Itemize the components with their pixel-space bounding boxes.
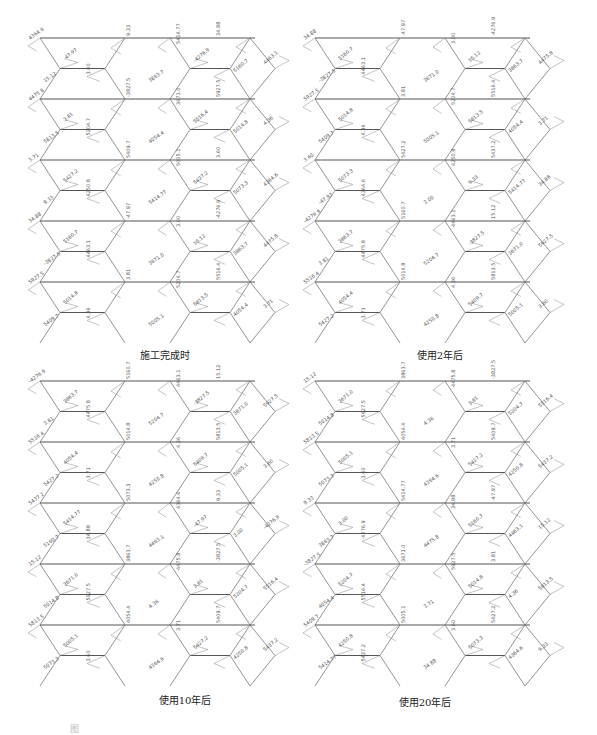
panel-caption-p3: 使用10年后 (159, 692, 212, 707)
svg-text:4364.6: 4364.6 (175, 492, 181, 510)
svg-text:5927.5: 5927.5 (27, 270, 45, 285)
svg-text:3.71: 3.71 (85, 467, 91, 478)
svg-text:5813.5: 5813.5 (467, 108, 484, 124)
svg-text:15.12: 15.12 (215, 365, 221, 379)
svg-text:5005.1: 5005.1 (232, 461, 249, 477)
svg-text:3.81: 3.81 (467, 395, 479, 407)
svg-text:15.12: 15.12 (490, 205, 496, 219)
svg-text:5014.8: 5014.8 (337, 106, 354, 122)
svg-text:-47.97: -47.97 (400, 20, 406, 36)
svg-text:5160.7: 5160.7 (337, 45, 354, 61)
svg-text:5073.3: 5073.3 (125, 484, 131, 502)
svg-text:3.60: 3.60 (302, 152, 315, 163)
svg-text:5409.7: 5409.7 (490, 423, 496, 441)
svg-text:4054.4: 4054.4 (317, 594, 335, 609)
diagrid-frame-diagram: 34.88-47.973.00-4276.95160.74463.115.123… (305, 32, 560, 342)
panel-p1: 4364.69.335414.7734.88-47.973.00-4276.95… (30, 32, 285, 342)
svg-text:5409.7: 5409.7 (302, 613, 320, 628)
svg-text:3671.0: 3671.0 (175, 88, 181, 106)
svg-text:4463.1: 4463.1 (507, 522, 524, 538)
svg-text:3.81: 3.81 (400, 86, 406, 97)
svg-text:3671.0: 3671.0 (62, 571, 79, 587)
svg-text:3863.7: 3863.7 (125, 545, 131, 563)
svg-text:5160.7: 5160.7 (232, 57, 249, 73)
svg-text:-47.97: -47.97 (125, 203, 131, 219)
svg-text:5005.1: 5005.1 (400, 606, 406, 624)
svg-text:5427.2: 5427.2 (42, 472, 60, 487)
svg-text:-4276.9: -4276.9 (215, 200, 221, 219)
svg-text:34.88: 34.88 (215, 22, 221, 36)
svg-text:5414.77: 5414.77 (62, 508, 82, 526)
diagrid-frame-diagram: -4276.95160.74463.115.123863.74475.8-382… (30, 375, 285, 685)
svg-text:4364.6: 4364.6 (27, 26, 45, 41)
svg-text:3863.7: 3863.7 (507, 57, 524, 73)
svg-text:3.60: 3.60 (450, 620, 456, 631)
svg-text:4475.8: 4475.8 (360, 240, 366, 258)
svg-text:3.81: 3.81 (192, 578, 204, 590)
svg-text:4250.8: 4250.8 (422, 312, 440, 327)
svg-text:3671.0: 3671.0 (337, 388, 354, 404)
diagrid-frame-diagram: 4364.69.335414.7734.88-47.973.00-4276.95… (30, 32, 285, 342)
svg-text:4475.8: 4475.8 (27, 87, 45, 102)
figure-caption: 图 (70, 722, 79, 735)
svg-text:4463.1: 4463.1 (450, 210, 456, 228)
svg-text:3863.7: 3863.7 (62, 388, 79, 404)
svg-text:5204.7: 5204.7 (337, 571, 354, 587)
svg-text:3.81: 3.81 (317, 255, 330, 266)
svg-text:4.36: 4.36 (450, 277, 456, 288)
svg-text:4.36: 4.36 (422, 415, 435, 426)
svg-text:15.12: 15.12 (467, 49, 482, 63)
svg-text:3671.0: 3671.0 (400, 545, 406, 563)
svg-text:5005.1: 5005.1 (175, 149, 181, 167)
svg-text:5073.3: 5073.3 (337, 167, 354, 183)
svg-text:4.36: 4.36 (175, 437, 181, 448)
svg-text:3.81: 3.81 (490, 551, 496, 562)
svg-text:5160.7: 5160.7 (400, 202, 406, 220)
svg-text:15.12: 15.12 (42, 70, 57, 83)
svg-text:-47.97: -47.97 (317, 191, 334, 205)
svg-text:3.71: 3.71 (262, 298, 274, 310)
svg-text:5927.5: 5927.5 (360, 400, 366, 418)
svg-text:3.60: 3.60 (537, 298, 549, 310)
panel-p3: -4276.95160.74463.115.123863.74475.8-382… (30, 375, 285, 685)
svg-text:5427.2: 5427.2 (490, 606, 496, 624)
svg-text:5204.7: 5204.7 (85, 118, 91, 136)
svg-text:5414.77: 5414.77 (147, 189, 167, 206)
svg-text:15.12: 15.12 (537, 516, 552, 530)
svg-text:4463.1: 4463.1 (175, 370, 181, 388)
svg-text:5204.7: 5204.7 (232, 583, 249, 599)
svg-text:5204.7: 5204.7 (507, 400, 524, 416)
svg-text:34.88: 34.88 (422, 657, 437, 670)
svg-text:3863.7: 3863.7 (317, 533, 335, 548)
svg-text:4054.4: 4054.4 (400, 423, 406, 441)
svg-text:5409.7: 5409.7 (125, 141, 131, 159)
svg-text:5204.7: 5204.7 (450, 88, 456, 106)
svg-text:5516.4: 5516.4 (302, 270, 320, 285)
svg-text:-47.97: -47.97 (192, 513, 208, 528)
svg-text:-3827.5: -3827.5 (215, 543, 221, 562)
svg-text:5409.7: 5409.7 (42, 312, 60, 327)
svg-text:5160.7: 5160.7 (42, 533, 60, 548)
svg-text:3863.7: 3863.7 (400, 362, 406, 380)
svg-text:5073.3: 5073.3 (317, 472, 335, 487)
svg-text:3.81: 3.81 (42, 415, 55, 426)
svg-text:-4276.9: -4276.9 (360, 520, 366, 539)
svg-text:5813.5: 5813.5 (302, 430, 320, 445)
svg-text:4250.8: 4250.8 (507, 461, 524, 477)
svg-text:4250.8: 4250.8 (337, 632, 354, 648)
svg-text:5437.2: 5437.2 (27, 491, 45, 506)
svg-text:4.36: 4.36 (147, 598, 160, 609)
svg-text:4463.1: 4463.1 (360, 57, 366, 75)
panel-caption-p2: 使用2年后 (417, 347, 463, 362)
svg-text:3.81: 3.81 (125, 269, 131, 280)
svg-text:5014.8: 5014.8 (400, 263, 406, 281)
svg-text:3.60: 3.60 (215, 147, 221, 158)
panel-p2: 34.88-47.973.00-4276.95160.74463.115.123… (305, 32, 560, 342)
svg-text:5516.4: 5516.4 (192, 108, 209, 124)
svg-text:3.60: 3.60 (85, 650, 91, 661)
svg-text:3671.0: 3671.0 (422, 68, 440, 83)
svg-text:5414.77: 5414.77 (175, 23, 181, 44)
svg-text:4054.4: 4054.4 (507, 118, 524, 134)
svg-text:5516.4: 5516.4 (360, 583, 366, 601)
svg-text:5160.7: 5160.7 (125, 362, 131, 380)
